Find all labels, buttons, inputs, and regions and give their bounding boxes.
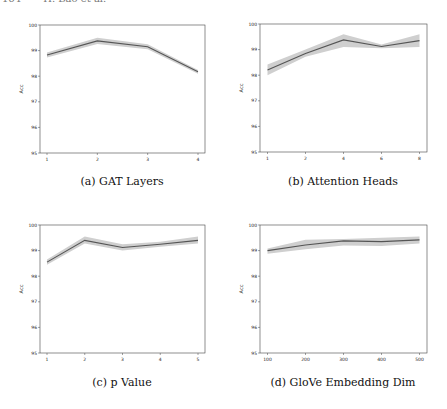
confidence-band bbox=[47, 237, 198, 265]
y-tick-label: 97 bbox=[31, 99, 37, 104]
x-tick-label: 1 bbox=[266, 156, 269, 161]
x-tick-label: 300 bbox=[339, 357, 348, 362]
x-tick-label: 8 bbox=[418, 156, 421, 161]
y-tick-label: 98 bbox=[251, 274, 257, 279]
x-tick-label: 1 bbox=[46, 157, 49, 162]
y-tick-label: 98 bbox=[31, 274, 37, 279]
y-tick-label: 97 bbox=[31, 299, 37, 304]
y-tick-label: 97 bbox=[251, 299, 257, 304]
y-tick-label: 96 bbox=[31, 125, 37, 130]
x-tick-label: 200 bbox=[301, 357, 310, 362]
x-tick-label: 500 bbox=[415, 357, 424, 362]
y-tick-label: 96 bbox=[251, 325, 257, 330]
chart-b: 959697989910012468Acc bbox=[238, 22, 427, 161]
y-tick-label: 99 bbox=[251, 248, 257, 253]
x-tick-label: 2 bbox=[83, 357, 86, 362]
y-tick-label: 100 bbox=[28, 223, 37, 228]
confidence-band bbox=[47, 38, 198, 74]
caption-c: (c) p Value bbox=[10, 376, 234, 389]
y-tick-label: 98 bbox=[251, 73, 257, 78]
chart-c: 959697989910012345Acc bbox=[18, 223, 205, 362]
x-tick-label: 2 bbox=[304, 156, 307, 161]
figure-panels: 95969798991001234Acc959697989910012468Ac… bbox=[0, 0, 447, 409]
caption-b: (b) Attention Heads bbox=[231, 175, 447, 188]
y-tick-label: 100 bbox=[28, 23, 37, 28]
x-tick-label: 5 bbox=[197, 357, 200, 362]
x-tick-label: 1 bbox=[46, 357, 49, 362]
y-tick-label: 98 bbox=[31, 74, 37, 79]
x-tick-label: 4 bbox=[197, 157, 200, 162]
x-tick-label: 3 bbox=[121, 357, 124, 362]
x-tick-label: 4 bbox=[159, 357, 162, 362]
y-tick-label: 96 bbox=[31, 325, 37, 330]
confidence-band bbox=[268, 237, 420, 254]
y-axis-label: Acc bbox=[18, 84, 24, 93]
caption-d: (d) GloVe Embedding Dim bbox=[231, 376, 447, 389]
y-tick-label: 95 bbox=[251, 351, 257, 356]
y-tick-label: 100 bbox=[248, 22, 257, 27]
y-tick-label: 100 bbox=[248, 223, 257, 228]
y-tick-label: 95 bbox=[31, 351, 37, 356]
x-tick-label: 2 bbox=[96, 157, 99, 162]
x-tick-label: 3 bbox=[146, 157, 149, 162]
y-tick-label: 95 bbox=[251, 150, 257, 155]
x-tick-label: 400 bbox=[377, 357, 386, 362]
y-tick-label: 95 bbox=[31, 151, 37, 156]
chart-d: 9596979899100100200300400500Acc bbox=[238, 223, 427, 362]
y-axis-label: Acc bbox=[238, 83, 244, 92]
caption-a: (a) GAT Layers bbox=[10, 175, 234, 188]
x-tick-label: 6 bbox=[380, 156, 383, 161]
chart-a: 95969798991001234Acc bbox=[18, 23, 205, 162]
y-tick-label: 99 bbox=[31, 48, 37, 53]
x-tick-label: 4 bbox=[342, 156, 345, 161]
x-tick-label: 100 bbox=[263, 357, 272, 362]
y-axis-label: Acc bbox=[238, 284, 244, 293]
y-axis-label: Acc bbox=[18, 284, 24, 293]
y-tick-label: 96 bbox=[251, 124, 257, 129]
y-tick-label: 99 bbox=[31, 248, 37, 253]
y-tick-label: 99 bbox=[251, 47, 257, 52]
y-tick-label: 97 bbox=[251, 98, 257, 103]
